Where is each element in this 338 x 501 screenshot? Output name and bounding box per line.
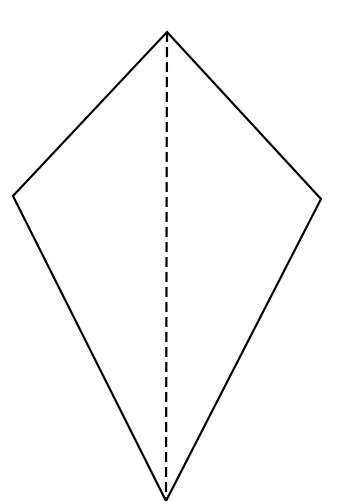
kite-diagram bbox=[0, 0, 338, 501]
symmetry-axis-dashed bbox=[166, 32, 167, 501]
